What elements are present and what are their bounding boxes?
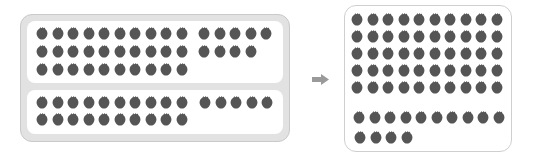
left-group-frame [20, 14, 290, 142]
strawberry-icon [145, 96, 157, 109]
strawberry-icon [98, 63, 110, 76]
strawberry-row [198, 45, 260, 58]
strawberry-icon [160, 45, 172, 58]
strawberry-icon [475, 81, 487, 94]
strawberry-icon [462, 111, 474, 124]
strawberry-icon [491, 47, 503, 60]
strawberry-icon [384, 111, 396, 124]
strawberry-icon [215, 96, 227, 109]
strawberry-icon [229, 45, 241, 58]
strawberry-icon [367, 64, 379, 77]
strawberry-icon [67, 113, 79, 126]
strawberry-icon [351, 81, 363, 94]
strawberry-icon [460, 81, 472, 94]
strawberry-icon [413, 13, 425, 26]
strawberry-icon [444, 64, 456, 77]
strawberry-icon [460, 47, 472, 60]
strawberry-icon [214, 45, 226, 58]
strawberry-icon [176, 113, 188, 126]
strawberry-icon [477, 111, 489, 124]
strawberry-icon [245, 27, 257, 40]
strawberry-icon [67, 45, 79, 58]
strawberry-icon [261, 96, 273, 109]
right-arrow-icon [312, 71, 329, 89]
strawberry-icon [52, 113, 64, 126]
strawberry-icon [114, 63, 126, 76]
strawberry-icon [114, 27, 126, 40]
strawberry-icon [398, 64, 410, 77]
strawberry-icon [160, 27, 172, 40]
strawberry-row [36, 27, 191, 40]
strawberry-icon [214, 27, 226, 40]
strawberry-row [354, 131, 416, 144]
strawberry-icon [413, 47, 425, 60]
strawberry-icon [145, 63, 157, 76]
strawberry-icon [491, 30, 503, 43]
strawberry-row [351, 47, 506, 60]
strawberry-icon [385, 131, 397, 144]
strawberry-icon [129, 113, 141, 126]
strawberry-icon [230, 96, 242, 109]
strawberry-icon [429, 30, 441, 43]
strawberry-icon [491, 64, 503, 77]
strawberry-icon [36, 45, 48, 58]
top-panel [27, 21, 283, 83]
strawberry-icon [475, 30, 487, 43]
strawberry-icon [493, 111, 505, 124]
strawberry-row [351, 30, 506, 43]
strawberry-icon [176, 27, 188, 40]
strawberry-icon [401, 131, 413, 144]
strawberry-icon [351, 30, 363, 43]
strawberry-icon [382, 13, 394, 26]
strawberry-icon [431, 111, 443, 124]
strawberry-icon [129, 96, 141, 109]
strawberry-icon [369, 111, 381, 124]
strawberry-icon [36, 27, 48, 40]
strawberry-row [353, 111, 508, 124]
strawberry-icon [229, 27, 241, 40]
strawberry-icon [398, 30, 410, 43]
strawberry-icon [52, 63, 64, 76]
strawberry-row [198, 27, 276, 40]
strawberry-icon [83, 96, 95, 109]
strawberry-icon [83, 113, 95, 126]
strawberry-icon [353, 111, 365, 124]
strawberry-icon [67, 63, 79, 76]
strawberry-row [36, 63, 191, 76]
strawberry-icon [491, 81, 503, 94]
strawberry-icon [429, 64, 441, 77]
strawberry-icon [129, 45, 141, 58]
strawberry-icon [475, 47, 487, 60]
strawberry-icon [367, 47, 379, 60]
strawberry-icon [475, 64, 487, 77]
strawberry-icon [444, 81, 456, 94]
strawberry-row [199, 96, 277, 109]
strawberry-icon [52, 27, 64, 40]
strawberry-icon [145, 45, 157, 58]
strawberry-icon [367, 13, 379, 26]
strawberry-icon [429, 47, 441, 60]
strawberry-icon [160, 113, 172, 126]
strawberry-icon [415, 111, 427, 124]
strawberry-icon [176, 96, 188, 109]
strawberry-icon [444, 13, 456, 26]
strawberry-icon [491, 13, 503, 26]
strawberry-icon [160, 96, 172, 109]
strawberry-icon [354, 131, 366, 144]
strawberry-icon [129, 63, 141, 76]
bottom-panel [27, 90, 283, 134]
strawberry-icon [460, 64, 472, 77]
strawberry-icon [176, 45, 188, 58]
strawberry-icon [83, 63, 95, 76]
strawberry-icon [382, 30, 394, 43]
strawberry-icon [446, 111, 458, 124]
strawberry-icon [67, 96, 79, 109]
strawberry-icon [429, 13, 441, 26]
strawberry-icon [52, 45, 64, 58]
strawberry-row [351, 81, 506, 94]
strawberry-icon [444, 30, 456, 43]
strawberry-icon [370, 131, 382, 144]
strawberry-icon [460, 13, 472, 26]
strawberry-icon [198, 45, 210, 58]
strawberry-icon [129, 27, 141, 40]
